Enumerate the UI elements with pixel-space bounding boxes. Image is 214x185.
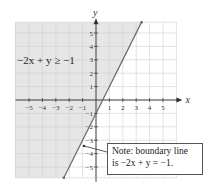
x-tick-label: 4 [148,104,152,112]
y-tick-label: −3 [86,137,94,145]
y-axis-label: y [92,7,98,18]
y-tick-label: 3 [90,56,94,64]
y-tick-label: −5 [86,164,94,172]
y-tick-label: −1 [86,110,94,118]
x-tick-label: −2 [65,104,73,112]
y-tick-label: 5 [90,30,94,38]
x-tick-label: 2 [121,104,125,112]
line-end-arrow-icon [63,176,66,179]
note-box: Note: boundary line is −2x + y = −1. [107,143,203,175]
y-tick-label: 4 [90,43,94,51]
x-axis-arrow-icon [176,98,182,103]
y-tick-label: 2 [90,70,94,78]
x-tick-label: 1 [108,104,112,112]
note-line-2: is −2x + y = −1. [112,157,198,169]
y-tick-label: −4 [86,150,94,158]
y-tick-label: 1 [90,83,94,91]
x-tick-label: 3 [134,104,138,112]
x-tick-label: 5 [161,104,165,112]
x-tick-label: −3 [52,104,60,112]
line-end-arrow-icon [140,21,143,24]
y-axis-arrow-icon [94,18,99,24]
x-tick-label: −4 [39,104,47,112]
x-axis-label: x [184,94,190,105]
x-tick-label: −5 [25,104,33,112]
note-pointer-arrow-icon [83,145,85,147]
inequality-label: −2x + y ≥ −1 [17,54,75,66]
note-line-1: Note: boundary line [112,145,198,157]
